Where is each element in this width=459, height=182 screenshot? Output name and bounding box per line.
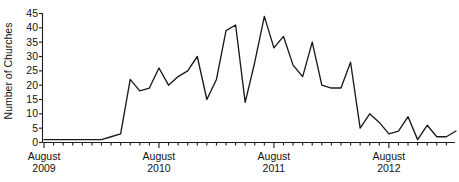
x-axis-tick-labels: August2009August2010August2011August2012 <box>0 0 459 182</box>
x-axis-major-label: August2010 <box>119 150 199 174</box>
line-chart: Number of Churches 051015202530354045 Au… <box>0 0 459 182</box>
x-axis-major-label: August2011 <box>234 150 314 174</box>
x-axis-label-month: August <box>234 150 314 162</box>
x-axis-label-year: 2011 <box>234 162 314 174</box>
x-axis-label-year: 2012 <box>349 162 429 174</box>
x-axis-major-label: August2012 <box>349 150 429 174</box>
x-axis-label-year: 2009 <box>4 162 84 174</box>
x-axis-label-month: August <box>119 150 199 162</box>
x-axis-label-year: 2010 <box>119 162 199 174</box>
x-axis-major-label: August2009 <box>4 150 84 174</box>
x-axis-label-month: August <box>4 150 84 162</box>
x-axis-label-month: August <box>349 150 429 162</box>
